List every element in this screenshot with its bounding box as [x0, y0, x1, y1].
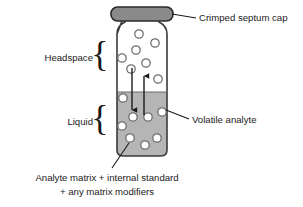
bubble-headspace — [142, 59, 150, 67]
label-headspace: Headspace — [44, 52, 93, 63]
bubble-headspace — [127, 65, 135, 73]
leader-line-cap — [172, 14, 196, 18]
label-liquid: Liquid — [67, 116, 93, 127]
bubble-liquid — [153, 134, 161, 142]
bubble-headspace — [154, 75, 162, 83]
caption-line-2: + any matrix modifiers — [60, 186, 154, 197]
bubble-liquid — [119, 94, 127, 102]
headspace-vial-diagram: { { Headspace Liquid Crimped septum cap … — [0, 0, 303, 207]
bubble-liquid-labeled — [158, 108, 166, 116]
crimped-septum-cap — [111, 7, 173, 21]
bubble-liquid — [141, 141, 149, 149]
bubble-headspace — [135, 30, 143, 38]
label-volatile-analyte: Volatile analyte — [192, 114, 257, 125]
bubble-liquid — [144, 113, 152, 121]
diagram-canvas: { { Headspace Liquid Crimped septum cap … — [0, 0, 303, 207]
bubble-liquid — [118, 122, 126, 130]
bubble-headspace — [151, 39, 159, 47]
bubble-headspace — [132, 46, 140, 54]
label-crimped-septum-cap: Crimped septum cap — [199, 12, 288, 23]
bubble-headspace — [118, 54, 126, 62]
bubble-liquid — [129, 113, 137, 121]
leader-line-analyte — [166, 110, 189, 119]
liquid-brace: { — [91, 98, 108, 138]
caption-line-1: Analyte matrix + internal standard — [35, 172, 178, 183]
bubble-liquid — [126, 134, 134, 142]
headspace-brace: { — [91, 34, 108, 74]
